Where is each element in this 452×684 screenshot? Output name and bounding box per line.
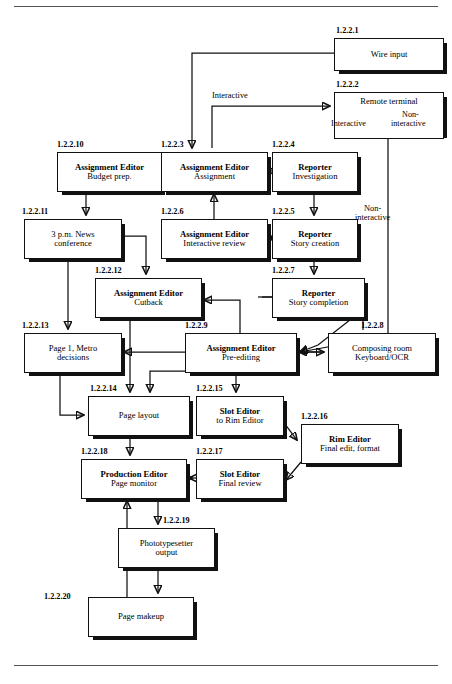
node-line2: decisions [57, 353, 89, 362]
edge-label-non-interactive-line2: interactive [355, 213, 390, 222]
node-box: Slot Editor to Rim Editor [196, 396, 284, 436]
node-box: 3 p.m. News conference [24, 219, 122, 259]
node-page-layout[interactable]: Page layout [88, 396, 188, 434]
node-line2: Pre-editing [222, 353, 260, 362]
node-wire-input[interactable]: Wire input [334, 38, 442, 69]
node-box: Reporter Story completion [272, 278, 365, 318]
node-tag-1-2-2-14: 1.2.2.14 [90, 384, 117, 393]
node-box: Assignment Editor Pre-editing [185, 333, 297, 373]
node-box: Page layout [88, 396, 190, 436]
node-tag-1-2-2-20: 1.2.2.20 [44, 592, 71, 601]
node-tag-1-2-2-1: 1.2.2.1 [336, 26, 359, 35]
node-tag-1-2-2-18: 1.2.2.18 [81, 447, 108, 456]
node-line2: Assignment [194, 172, 235, 181]
node-box: Assignment Editor Budget prep. [57, 152, 162, 192]
node-line2: Interactive review [183, 239, 245, 248]
node-page-makeup[interactable]: Page makeup [88, 597, 192, 635]
node-tag-1-2-2-10: 1.2.2.10 [57, 140, 84, 149]
node-assignment-editor-interactive-review[interactable]: Assignment Editor Interactive review [161, 219, 266, 257]
node-box: Page makeup [88, 597, 194, 637]
node-line2: Final edit, format [320, 444, 380, 453]
node-box: Assignment Editor Cutback [95, 278, 202, 318]
node-line2: Investigation [293, 172, 338, 181]
node-reporter-story-creation[interactable]: Reporter Story creation [272, 219, 356, 257]
node-tag-1-2-2-17: 1.2.2.17 [196, 447, 223, 456]
label-interactive-in-box: Interactive [331, 119, 366, 128]
node-composing-room[interactable]: Composing room Keyboard/OCR [328, 333, 434, 371]
node-production-editor-page-monitor[interactable]: Production Editor Page monitor [81, 459, 185, 497]
node-tag-1-2-2-19: 1.2.2.19 [163, 516, 190, 525]
node-tag-1-2-2-13: 1.2.2.13 [22, 321, 49, 330]
node-slot-editor-final-review[interactable]: Slot Editor Final review [196, 459, 282, 497]
node-news-conference[interactable]: 3 p.m. News conference [24, 219, 120, 257]
node-box: Production Editor Page monitor [81, 459, 187, 499]
node-line1: Page layout [119, 411, 159, 420]
node-reporter-investigation[interactable]: Reporter Investigation [272, 152, 356, 190]
node-tag-1-2-2-9: 1.2.2.9 [185, 321, 208, 330]
node-line2: Story creation [291, 239, 339, 248]
node-rim-editor[interactable]: Rim Editor Final edit, format [301, 424, 397, 462]
node-box: Rim Editor Final edit, format [301, 424, 399, 464]
edge-label-interactive: Interactive [212, 92, 248, 101]
label-non-in-box: Non- [402, 110, 419, 119]
node-tag-1-2-2-2: 1.2.2.2 [336, 80, 359, 89]
node-line1: Wire input [371, 50, 408, 59]
node-line2: Keyboard/OCR [355, 353, 409, 362]
node-box: Reporter Investigation [272, 152, 358, 192]
node-box: Reporter Story creation [272, 219, 358, 259]
node-box: Phototypesetter output [118, 528, 215, 568]
node-line2: Budget prep. [87, 172, 131, 181]
node-box: Assignment Editor Interactive review [161, 219, 268, 259]
node-line2: Cutback [134, 298, 163, 307]
node-tag-1-2-2-12: 1.2.2.12 [95, 266, 122, 275]
node-line2: Story completion [289, 298, 348, 307]
node-tag-1-2-2-8: 1.2.2.8 [361, 321, 384, 330]
node-line2: output [156, 548, 178, 557]
node-tag-1-2-2-15: 1.2.2.15 [196, 384, 223, 393]
node-box: Assignment Editor Assignment [161, 152, 268, 192]
node-line2: to Rim Editor [216, 416, 263, 425]
node-tag-1-2-2-6: 1.2.2.6 [161, 207, 184, 216]
edge-label-non-interactive: Non- interactive [355, 205, 390, 223]
node-assignment-editor-budget-prep[interactable]: Assignment Editor Budget prep. [57, 152, 160, 190]
node-assignment-editor-pre-editing[interactable]: Assignment Editor Pre-editing [185, 333, 295, 371]
node-assignment-editor-cutback[interactable]: Assignment Editor Cutback [95, 278, 200, 316]
node-tag-1-2-2-7: 1.2.2.7 [272, 266, 295, 275]
node-phototypesetter-output[interactable]: Phototypesetter output [118, 528, 213, 566]
node-line1: Remote terminal [360, 97, 418, 106]
node-line2: Final review [218, 479, 261, 488]
node-line1: Page makeup [118, 612, 164, 621]
node-line2: Page monitor [111, 479, 157, 488]
node-box: Wire input [334, 38, 444, 71]
flowchart-canvas: Wire input 1.2.2.1 Remote terminal 1.2.2… [0, 0, 452, 684]
node-reporter-story-completion[interactable]: Reporter Story completion [272, 278, 363, 316]
node-tag-1-2-2-3: 1.2.2.3 [161, 140, 184, 149]
edge-label-non-interactive-line1: Non- [364, 204, 381, 213]
node-box: Remote terminal [334, 92, 444, 139]
node-box: Composing room Keyboard/OCR [328, 333, 436, 373]
node-box: Page 1, Metro decisions [24, 333, 122, 373]
node-tag-1-2-2-4: 1.2.2.4 [272, 140, 295, 149]
label-interactive2-in-box: interactive [391, 119, 426, 128]
node-slot-editor-to-rim-editor[interactable]: Slot Editor to Rim Editor [196, 396, 282, 434]
node-tag-1-2-2-5: 1.2.2.5 [272, 207, 295, 216]
node-assignment-editor-assignment[interactable]: Assignment Editor Assignment [161, 152, 266, 190]
node-tag-1-2-2-16: 1.2.2.16 [301, 412, 328, 421]
node-line2: conference [54, 239, 92, 248]
node-tag-1-2-2-11: 1.2.2.11 [22, 207, 48, 216]
node-page-1-metro-decisions[interactable]: Page 1, Metro decisions [24, 333, 120, 371]
node-box: Slot Editor Final review [196, 459, 284, 499]
